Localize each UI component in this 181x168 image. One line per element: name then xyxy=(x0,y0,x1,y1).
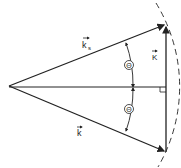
ks-label: k xyxy=(82,40,87,50)
K-label: K xyxy=(152,53,158,62)
ewald-circle-arc xyxy=(156,3,180,167)
ks-vector xyxy=(9,25,164,86)
right-angle-marker xyxy=(160,87,166,92)
k-label: k xyxy=(77,128,82,138)
scattering-vector-diagram: Θ Θ k s k K xyxy=(0,0,181,168)
k-vector xyxy=(9,86,164,151)
diagram-svg: Θ Θ k s k K xyxy=(0,0,181,168)
theta-top-label: Θ xyxy=(126,62,132,69)
ks-subscript: s xyxy=(88,45,91,51)
theta-bottom-label: Θ xyxy=(126,106,132,113)
